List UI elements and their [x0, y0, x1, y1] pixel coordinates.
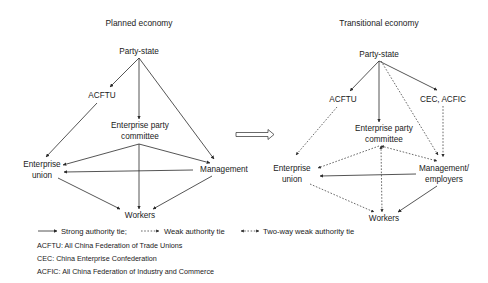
edge-r-union-workers-weak	[310, 184, 374, 212]
node-party-committee-r-l1: Enterprise party	[355, 124, 414, 133]
definition-cec: CEC: China Enterprise Confederation	[37, 254, 157, 263]
node-management: Management	[200, 165, 249, 174]
edge-management-workers	[153, 176, 212, 209]
node-union-r-l1: Enterprise	[273, 164, 311, 173]
edge-r-ps-cec	[379, 61, 437, 90]
node-union-l1: Enterprise	[23, 160, 61, 169]
edge-management-union	[64, 170, 193, 172]
node-union-l2: union	[32, 171, 52, 180]
edge-r-management-union	[320, 174, 416, 176]
node-workers: Workers	[125, 211, 155, 220]
planned-economy-panel: Planned economy Party-state ACFTU Enterp…	[23, 18, 248, 220]
edge-r-committee-union-weak	[318, 146, 379, 168]
node-management-r-l2: employers	[425, 175, 463, 184]
edge-r-management-workers	[398, 186, 437, 212]
node-party-committee-r-l2: committee	[365, 135, 403, 144]
edge-r-committee-workers-twoway	[381, 146, 382, 212]
panel-title-planned: Planned economy	[105, 18, 173, 28]
node-party-committee-l2: committee	[121, 132, 159, 141]
edge-r-committee-management-twoway	[381, 146, 437, 161]
edge-union-workers	[58, 178, 120, 209]
node-party-committee-l1: Enterprise party	[111, 121, 170, 130]
legend-strong-label: Strong authority tie;	[61, 227, 127, 236]
definition-acfic: ACFIC: All China Federation of Industry …	[37, 267, 214, 276]
node-union-r-l2: union	[282, 175, 302, 184]
panel-title-transitional: Transitional economy	[339, 18, 419, 28]
legend-twoway-label: Two-way weak authority tie	[263, 227, 354, 236]
edge-r-acftu-union-weak	[296, 107, 337, 155]
edge-ps-acftu	[110, 58, 139, 87]
node-acftu-r: ACFTU	[329, 95, 356, 104]
node-party-state: Party-state	[119, 47, 159, 56]
edge-committee-union	[63, 144, 139, 165]
node-party-state-r: Party-state	[359, 50, 399, 59]
node-acftu: ACFTU	[88, 91, 115, 100]
edge-committee-management	[139, 144, 210, 163]
node-management-r-l1: Management/	[419, 164, 470, 173]
edge-r-ps-acftu	[350, 61, 379, 91]
edge-ps-management	[139, 58, 214, 159]
transitional-economy-panel: Transitional economy Party-state ACFTU C…	[273, 18, 469, 223]
definition-acftu: ACFTU: All China Federation of Trade Uni…	[37, 241, 182, 250]
node-workers-r: Workers	[369, 214, 399, 223]
edge-acftu-union	[46, 103, 97, 157]
legend-weak-label: Weak authority tie	[164, 227, 225, 236]
node-cec-acfic: CEC, ACFIC	[420, 95, 466, 104]
legend: Strong authority tie; Weak authority tie…	[38, 227, 354, 236]
hollow-right-arrow-icon	[236, 130, 274, 140]
